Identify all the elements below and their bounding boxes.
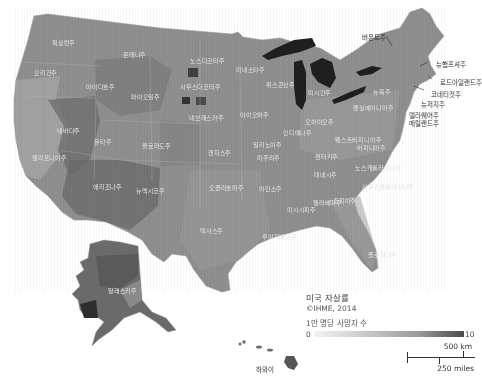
state-label: 미시간주 xyxy=(308,88,331,97)
color-scale: 0 10 xyxy=(306,330,471,340)
state-label: 플로리다주 xyxy=(368,250,397,259)
state-label: 버지니아주 xyxy=(357,143,386,152)
scale-km-label: 500 km xyxy=(444,342,472,351)
state-label: 워싱턴주 xyxy=(52,38,75,47)
color-scale-max: 10 xyxy=(465,330,475,339)
state-label: 루이지애나주 xyxy=(262,232,297,241)
state-label: 아이오와주 xyxy=(240,110,269,119)
color-scale-min: 0 xyxy=(306,330,311,339)
legend: 미국 자살률 ©IHME, 2014 1만 명당 사망자 수 0 10 xyxy=(306,291,471,340)
state-label: 테네시주 xyxy=(314,170,337,179)
state-label: 오하이오주 xyxy=(305,117,334,126)
state-label: 노스캐롤라이나주 xyxy=(355,163,401,172)
legend-title: 미국 자살률 xyxy=(306,291,471,303)
state-label: 캔자스주 xyxy=(208,148,231,157)
legend-unit: 1만 명당 사망자 수 xyxy=(306,317,471,328)
state-label: 위스콘신주 xyxy=(266,80,295,89)
external-state-label: 버몬트주 xyxy=(362,32,386,42)
external-state-label: 코네티컷주 xyxy=(431,89,461,99)
state-label: 일리노이주 xyxy=(253,140,282,149)
state-label: 뉴멕시코주 xyxy=(136,186,165,195)
state-label: 오리건주 xyxy=(34,68,57,77)
legend-source: ©IHME, 2014 xyxy=(306,304,471,313)
state-label: 미시시피주 xyxy=(287,205,316,214)
state-label: 네바다주 xyxy=(57,126,80,135)
scale-tick-start xyxy=(407,352,408,363)
state-label: 아이다호주 xyxy=(86,82,115,91)
state-label: 유타주 xyxy=(94,137,111,146)
color-gradient-bar xyxy=(314,331,464,337)
state-label: 미네소타주 xyxy=(236,65,265,74)
state-label: 텍사스주 xyxy=(200,226,223,235)
state-label: 캘리포니아주 xyxy=(32,153,67,162)
external-state-label: 뉴저지주 xyxy=(421,99,445,109)
external-state-label: 하와이 xyxy=(256,364,274,374)
scale-bar: 500 km 250 miles xyxy=(405,342,477,376)
state-label: 애리조나주 xyxy=(93,182,122,191)
scale-miles-label: 250 miles xyxy=(437,364,474,373)
state-label: 아칸소주 xyxy=(259,184,282,193)
state-label: 미주리주 xyxy=(257,153,280,162)
state-label: 뉴욕주 xyxy=(373,87,390,96)
state-label: 와이오밍주 xyxy=(131,92,160,101)
scale-tick-km xyxy=(463,351,464,358)
scale-tick-miles xyxy=(439,357,440,364)
state-label: 사우스다코타주 xyxy=(180,82,221,91)
scale-line xyxy=(407,357,475,358)
state-label: 조지아주 xyxy=(333,196,356,205)
state-label: 사우스캐롤라이나주 xyxy=(362,182,414,191)
external-state-label: 로드아일랜드주 xyxy=(440,77,482,87)
state-label: 콜로라도주 xyxy=(142,141,171,150)
external-state-label: 메릴랜드주 xyxy=(409,118,439,128)
state-label: 펜실베이니아주 xyxy=(353,103,394,112)
external-state-label: 뉴햄프셔주 xyxy=(436,59,466,69)
state-label: 몬태나주 xyxy=(123,50,146,59)
state-label: 네브래스카주 xyxy=(189,113,224,122)
state-label: 켄터키주 xyxy=(315,152,338,161)
state-label: 알래스카주 xyxy=(108,286,137,295)
state-label: 노스다코타주 xyxy=(190,56,225,65)
state-label: 인디애나주 xyxy=(283,128,312,137)
state-label: 오클라호마주 xyxy=(209,183,244,192)
